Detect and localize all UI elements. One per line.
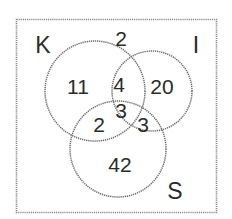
region-count-k-only: 11 (67, 75, 89, 98)
region-count-k-and-s: 2 (93, 113, 105, 136)
region-count-k-i-s: 3 (115, 99, 127, 122)
region-count-s-only: 42 (108, 153, 131, 176)
venn-diagram: K I S 11 20 42 4 2 3 3 2 (0, 0, 232, 219)
venn-canvas: K I S 11 20 42 4 2 3 3 2 (0, 0, 232, 219)
set-label-s: S (167, 178, 182, 204)
region-count-outside: 2 (115, 27, 127, 50)
set-label-k: K (35, 32, 51, 58)
region-count-i-only: 20 (150, 75, 173, 98)
set-label-i: I (193, 32, 199, 58)
region-count-i-and-s: 3 (137, 113, 149, 136)
region-count-k-and-i: 4 (113, 73, 125, 96)
